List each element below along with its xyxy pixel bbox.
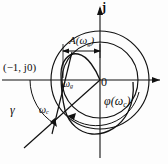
- amplitude-label: A(ωg): [69, 35, 94, 47]
- gain-crossover-sub: g: [70, 82, 73, 89]
- phase-crossover-omega: ω: [39, 104, 46, 115]
- origin-label: 0: [101, 76, 107, 88]
- gain-crossover-omega: ω: [63, 78, 70, 89]
- critical-point-label: (−1, j0): [3, 62, 36, 73]
- phase-angle-main: φ(: [104, 94, 115, 108]
- phase-angle-close: ): [126, 94, 130, 108]
- nyquist-diagram: j (−1, j0) A(ωg) 0 ωg ωc γ φ(ωc): [0, 0, 168, 164]
- amplitude-label-main: A(: [69, 34, 79, 46]
- nyquist-vector-graphic: [0, 0, 168, 164]
- gain-crossover-label: ωg: [63, 79, 73, 90]
- amplitude-label-close: ): [91, 34, 95, 46]
- phase-margin-label: γ: [10, 104, 15, 116]
- phase-angle-label: φ(ωc): [104, 95, 130, 108]
- amplitude-measure-bar: [62, 44, 101, 78]
- phase-crossover-sub: c: [46, 108, 49, 115]
- amplitude-label-omega: ω: [79, 34, 87, 46]
- imaginary-axis-label: j: [102, 1, 106, 13]
- phase-angle-omega: ω: [115, 94, 123, 108]
- phase-crossover-label: ωc: [39, 105, 49, 116]
- real-axis: [2, 77, 160, 83]
